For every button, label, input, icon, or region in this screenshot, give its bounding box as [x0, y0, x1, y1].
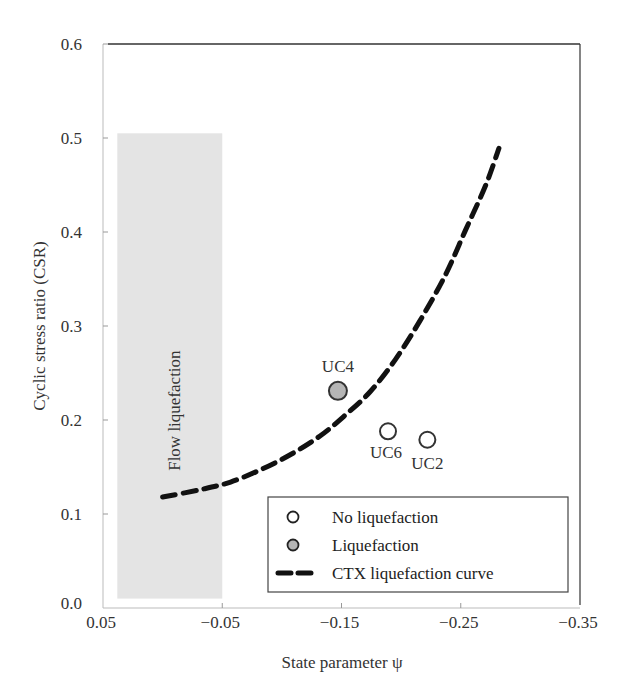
y-tick-label: 0.4 [61, 223, 83, 242]
y-tick-label: 0.0 [61, 594, 82, 613]
point-label-uc6: UC6 [370, 443, 402, 462]
no-liquefaction-point-uc2 [419, 432, 435, 448]
legend-filled-circle-icon [288, 540, 299, 551]
x-tick-label: 0.05 [86, 613, 116, 632]
point-label-uc4: UC4 [322, 357, 355, 376]
legend-no-liquefaction: No liquefaction [332, 508, 439, 527]
x-tick-label: −0.35 [558, 613, 597, 632]
y-axis-ticks: 0.00.10.20.30.40.50.6 [61, 35, 108, 613]
y-axis-title: Cyclic stress ratio (CSR) [30, 241, 49, 411]
flow-liquefaction-label: Flow liquefaction [165, 350, 184, 471]
legend-open-circle-icon [288, 512, 299, 523]
y-tick-label: 0.1 [61, 505, 82, 524]
y-tick-label: 0.5 [61, 129, 82, 148]
chart: Flow liquefaction 0.00.10.20.30.40.50.6 … [0, 0, 634, 699]
y-tick-label: 0.6 [61, 35, 82, 54]
x-axis-ticks: 0.05−0.05−0.15−0.25−0.35 [86, 603, 598, 632]
x-tick-label: −0.15 [320, 613, 359, 632]
legend-ctx-curve: CTX liquefaction curve [332, 564, 493, 583]
point-label-uc2: UC2 [411, 454, 443, 473]
x-axis-title: State parameter ψ [281, 653, 402, 672]
legend: No liquefaction Liquefaction CTX liquefa… [268, 497, 568, 592]
liquefaction-point-uc4 [329, 382, 347, 400]
legend-liquefaction: Liquefaction [332, 536, 419, 555]
x-tick-label: −0.25 [439, 613, 478, 632]
x-tick-label: −0.05 [201, 613, 240, 632]
y-tick-label: 0.3 [61, 317, 82, 336]
y-tick-label: 0.2 [61, 411, 82, 430]
no-liquefaction-point-uc6 [380, 423, 396, 439]
